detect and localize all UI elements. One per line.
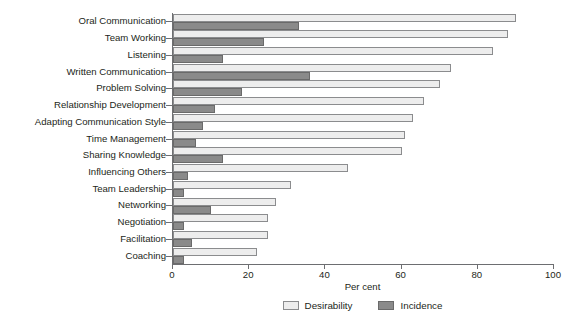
bar-row — [173, 114, 554, 131]
category-label: Networking — [0, 200, 166, 210]
category-label: Time Management — [0, 134, 166, 144]
bar-incidence — [173, 139, 196, 147]
bar-incidence — [173, 256, 184, 264]
bar-desirability — [173, 14, 516, 22]
x-tick-label: 80 — [471, 269, 482, 280]
plot-area — [172, 13, 554, 265]
bar-row — [173, 248, 554, 265]
chart-legend: Desirability Incidence — [172, 300, 553, 311]
category-label: Team Working — [0, 33, 166, 43]
category-label: Sharing Knowledge — [0, 150, 166, 160]
legend-item-desirability: Desirability — [283, 300, 353, 311]
category-label: Relationship Development — [0, 100, 166, 110]
value-axis: 020406080100 — [172, 264, 553, 280]
bar-row — [173, 14, 554, 31]
bar-row — [173, 30, 554, 47]
x-axis-title: Per cent — [172, 281, 553, 292]
bar-chart: Oral CommunicationTeam WorkingListeningW… — [0, 0, 576, 329]
bar-row — [173, 147, 554, 164]
bar-desirability — [173, 248, 257, 256]
category-label: Facilitation — [0, 234, 166, 244]
bar-desirability — [173, 47, 493, 55]
bar-row — [173, 198, 554, 215]
bar-incidence — [173, 222, 184, 230]
category-label: Coaching — [0, 251, 166, 261]
bar-desirability — [173, 64, 451, 72]
bar-incidence — [173, 122, 203, 130]
bar-desirability — [173, 164, 348, 172]
bar-desirability — [173, 231, 268, 239]
legend-label-desirability: Desirability — [305, 300, 353, 311]
legend-swatch-incidence-icon — [378, 301, 394, 310]
legend-item-incidence: Incidence — [378, 300, 442, 311]
bar-desirability — [173, 147, 402, 155]
bar-row — [173, 214, 554, 231]
category-label: Influencing Others — [0, 167, 166, 177]
legend-swatch-desirability-icon — [283, 301, 299, 310]
x-tick-label: 20 — [243, 269, 254, 280]
bar-row — [173, 97, 554, 114]
category-label: Oral Communication — [0, 16, 166, 26]
x-tick-label: 60 — [395, 269, 406, 280]
bar-desirability — [173, 30, 508, 38]
category-label: Problem Solving — [0, 83, 166, 93]
bar-desirability — [173, 181, 291, 189]
bar-row — [173, 231, 554, 248]
bar-desirability — [173, 97, 424, 105]
x-tick-label: 100 — [545, 269, 561, 280]
bar-desirability — [173, 114, 413, 122]
bar-incidence — [173, 155, 223, 163]
bar-incidence — [173, 105, 215, 113]
bar-incidence — [173, 172, 188, 180]
bar-row — [173, 80, 554, 97]
bar-row — [173, 164, 554, 181]
category-label: Negotiation — [0, 217, 166, 227]
bar-row — [173, 47, 554, 64]
x-tick-label: 0 — [169, 269, 174, 280]
bar-incidence — [173, 239, 192, 247]
bar-incidence — [173, 55, 223, 63]
bar-row — [173, 181, 554, 198]
bar-row — [173, 131, 554, 148]
x-tick-label: 40 — [319, 269, 330, 280]
category-label: Adapting Communication Style — [0, 117, 166, 127]
bar-incidence — [173, 22, 299, 30]
category-axis: Oral CommunicationTeam WorkingListeningW… — [0, 13, 166, 264]
category-label: Listening — [0, 50, 166, 60]
bar-desirability — [173, 80, 440, 88]
bar-incidence — [173, 189, 184, 197]
legend-label-incidence: Incidence — [400, 300, 442, 311]
bar-rows — [173, 13, 554, 264]
category-label: Team Leadership — [0, 184, 166, 194]
bar-incidence — [173, 72, 310, 80]
bar-incidence — [173, 38, 264, 46]
bar-incidence — [173, 206, 211, 214]
bar-desirability — [173, 131, 405, 139]
bar-desirability — [173, 214, 268, 222]
bar-desirability — [173, 198, 276, 206]
category-label: Written Communication — [0, 67, 166, 77]
bar-row — [173, 64, 554, 81]
bar-incidence — [173, 88, 242, 96]
